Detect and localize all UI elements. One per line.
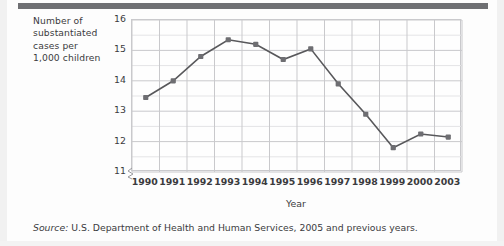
- page-bottom-edge: [0, 241, 504, 246]
- y-axis-tick-label: 15: [104, 43, 126, 54]
- y-axis-caption-line-3: cases per: [33, 40, 111, 52]
- page-left-edge: [0, 0, 7, 246]
- y-axis-tick-label: 11: [104, 165, 126, 176]
- x-axis-title: Year: [131, 198, 461, 209]
- y-axis-tick-label: 12: [104, 135, 126, 146]
- y-axis-caption-line-1: Number of: [33, 15, 111, 27]
- y-axis-caption-line-4: 1,000 children: [33, 52, 111, 64]
- y-axis-caption: Number of substantiated cases per 1,000 …: [33, 15, 111, 65]
- y-axis-tick-label: 16: [104, 13, 126, 24]
- page-right-edge: [497, 0, 504, 246]
- source-body: U.S. Department of Health and Human Serv…: [71, 222, 418, 233]
- chart-figure: Number of substantiated cases per 1,000 …: [0, 0, 504, 246]
- source-label: Source:: [33, 222, 68, 233]
- source-note: Source: U.S. Department of Health and Hu…: [33, 222, 418, 233]
- y-axis-tick-label: 14: [104, 74, 126, 85]
- y-axis-tick-label: 13: [104, 104, 126, 115]
- x-axis-tick-label: 2003: [430, 176, 464, 187]
- top-banner-rule: [18, 3, 488, 9]
- y-axis-caption-line-2: substantiated: [33, 27, 111, 39]
- data-series-line: [132, 20, 462, 172]
- plot-area: [131, 19, 461, 171]
